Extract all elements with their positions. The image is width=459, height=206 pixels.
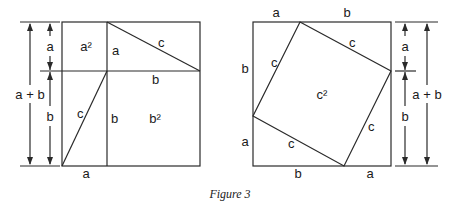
label-lower-c: c — [77, 106, 84, 121]
label-top-a: a — [112, 43, 120, 58]
label-mid-b: b — [152, 72, 159, 87]
right-dim-b: b — [401, 109, 408, 124]
right-top-a: a — [272, 5, 280, 20]
figure-caption: Figure 3 — [208, 187, 250, 201]
right-square-diagram: a b b a b a c c c c c² a b a + b — [241, 5, 441, 181]
left-dim-b: b — [46, 109, 53, 124]
pythagorean-proof-figure: a + b a b a² a c b c b b² a — [0, 0, 459, 206]
label-c-squared: c² — [317, 87, 329, 102]
left-dim-a-plus-b: a + b — [15, 87, 44, 102]
left-bottom-hypotenuse — [62, 71, 107, 166]
label-b-squared: b² — [149, 111, 161, 126]
inner-side-c-right: c — [368, 119, 375, 134]
inner-side-c-bottom: c — [288, 136, 295, 151]
left-square-diagram: a + b a b a² a c b c b b² a — [15, 22, 200, 181]
right-left-a: a — [241, 134, 249, 149]
label-a-squared: a² — [80, 39, 92, 54]
right-left-b: b — [241, 61, 248, 76]
label-bottom-a: a — [82, 166, 90, 181]
right-bottom-b: b — [294, 166, 301, 181]
right-top-b: b — [343, 5, 350, 20]
label-lower-b: b — [111, 111, 118, 126]
inner-side-c-top: c — [349, 35, 356, 50]
right-bottom-a: a — [366, 166, 374, 181]
right-dim-a: a — [401, 39, 409, 54]
right-dim-a-plus-b: a + b — [412, 87, 441, 102]
label-top-c: c — [158, 35, 165, 50]
left-top-hypotenuse — [107, 22, 200, 71]
inner-side-c-left: c — [271, 55, 278, 70]
left-dim-a: a — [46, 39, 54, 54]
